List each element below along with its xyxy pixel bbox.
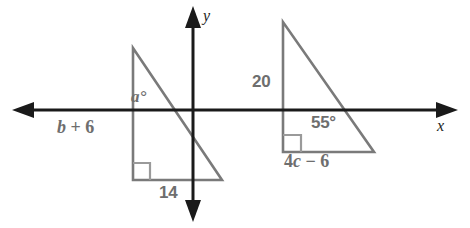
left-triangle-outline xyxy=(133,48,222,180)
left-triangle-angle-label: a° xyxy=(131,88,146,105)
y-axis-arrow-up-icon xyxy=(185,6,201,28)
coefficient-4: 4 xyxy=(284,151,293,171)
x-axis-arrow-right-icon xyxy=(436,102,458,118)
x-axis-arrow-left-icon xyxy=(12,102,34,118)
y-axis-arrow-down-icon xyxy=(185,200,201,222)
axes xyxy=(12,6,458,222)
left-right-angle-marker xyxy=(133,163,150,180)
right-triangle-angle-label: 55° xyxy=(311,114,336,131)
left-triangle-base-label: 14 xyxy=(159,184,177,201)
x-axis-label: x xyxy=(437,118,444,134)
y-axis-label: y xyxy=(203,8,210,24)
left-triangle xyxy=(133,48,222,180)
left-leg-rest: + 6 xyxy=(66,117,94,137)
left-triangle-vertical-leg-label: b + 6 xyxy=(57,118,94,136)
variable-c: c xyxy=(293,151,301,171)
right-triangle-outline xyxy=(283,22,374,152)
geometry-figure: a° b + 6 14 20 55° 4c − 6 y x xyxy=(0,0,470,228)
right-triangle-base-label: 4c − 6 xyxy=(284,152,329,170)
right-triangle xyxy=(283,22,374,152)
figure-canvas xyxy=(0,0,470,228)
variable-b: b xyxy=(57,117,66,137)
right-base-rest: − 6 xyxy=(301,151,329,171)
right-right-angle-marker xyxy=(283,135,301,152)
right-triangle-vertical-leg-label: 20 xyxy=(252,73,270,90)
